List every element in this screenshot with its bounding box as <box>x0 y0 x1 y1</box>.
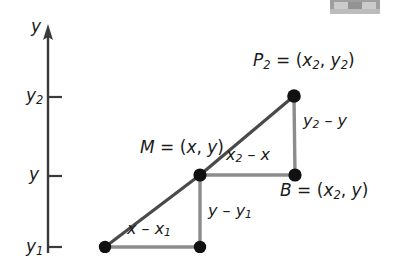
gray-scan-artifact <box>330 0 380 14</box>
point-P1 <box>99 241 111 253</box>
leg-label-x-minus-x1: x – x1 <box>127 221 171 239</box>
leg-label-y-minus-y1: y – y1 <box>208 203 252 221</box>
tick-label-y2: y2 <box>26 87 43 106</box>
point-P2 <box>287 89 301 103</box>
tick-label-y1: y1 <box>26 238 43 257</box>
point-label-P2: P2 = (x2, y2) <box>253 52 355 71</box>
point-M <box>193 168 206 181</box>
point-A <box>194 241 206 253</box>
point-label-M: M = (x, y) <box>140 139 224 156</box>
y-axis-label: y <box>31 18 41 35</box>
leg-vertical-upper <box>294 97 295 175</box>
leg-label-y2-minus-y: y2 – y <box>303 113 347 131</box>
point-label-B: B = (x2, y) <box>280 182 368 201</box>
leg-label-x2-minus-x: x2 – x <box>226 147 270 165</box>
tick-label-y: y <box>29 166 39 183</box>
